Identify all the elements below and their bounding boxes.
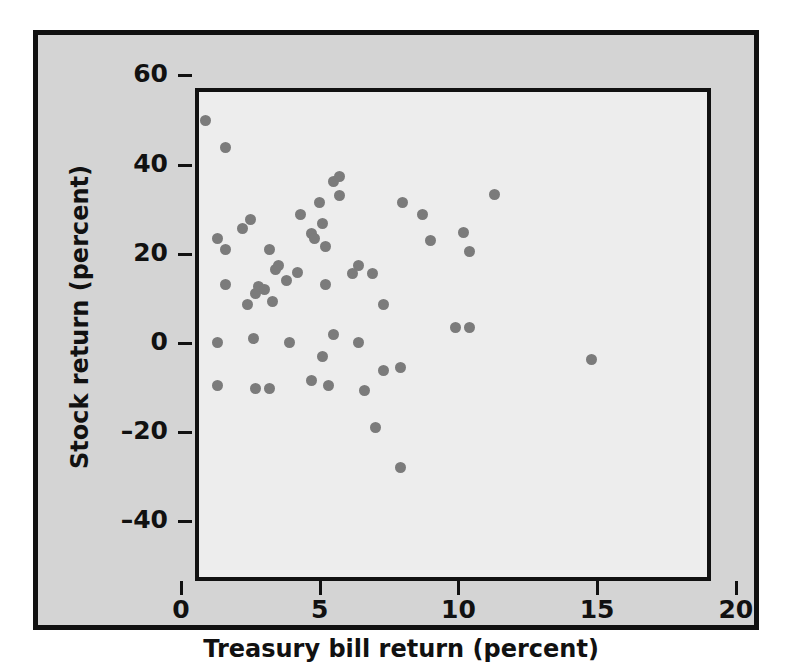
data-point [395,462,406,473]
data-point [314,197,325,208]
data-point [378,299,389,310]
x-axis-tick-label: 0 [136,597,226,622]
data-point [212,337,223,348]
y-axis-tick [178,253,192,256]
data-point [267,296,278,307]
data-point [353,337,364,348]
data-point [323,380,334,391]
data-point [264,383,275,394]
x-axis-tick [457,581,460,595]
y-axis-tick-label: 0 [38,329,168,354]
y-axis-title: Stock return (percent) [66,107,94,527]
scatter-plot-canvas [199,92,707,577]
data-point [464,246,475,257]
data-point [245,214,256,225]
figure-frame: –40–200204060 05101520 Treasury bill ret… [33,30,759,630]
data-point [292,267,303,278]
y-axis-tick [178,74,192,77]
figure-root: –40–200204060 05101520 Treasury bill ret… [0,0,798,671]
x-axis-title: Treasury bill return (percent) [38,635,764,663]
y-axis-tick-label: –20 [38,418,168,443]
data-point [586,354,597,365]
y-axis-tick-label: 20 [38,240,168,265]
data-point [334,171,345,182]
y-axis-tick [178,431,192,434]
data-point [489,189,500,200]
data-point [417,209,428,220]
data-point [200,115,211,126]
data-point [212,380,223,391]
data-point [464,322,475,333]
data-point [395,362,406,373]
x-axis-tick [319,581,322,595]
x-axis-tick-label: 20 [691,597,781,622]
y-axis-tick-label: 40 [38,151,168,176]
data-point [359,385,370,396]
data-point [237,223,248,234]
plot-panel [195,88,711,581]
data-point [334,190,345,201]
data-point [295,209,306,220]
data-point [320,279,331,290]
y-axis-tick-label: 60 [38,61,168,86]
data-point [220,279,231,290]
x-axis-tick [735,581,738,595]
data-point [367,268,378,279]
x-axis-tick [180,581,183,595]
data-point [458,227,469,238]
y-axis-tick [178,520,192,523]
data-point [242,299,253,310]
x-axis-tick-label: 5 [275,597,365,622]
data-point [220,142,231,153]
x-axis-tick-label: 15 [552,597,642,622]
x-axis-tick-label: 10 [413,597,503,622]
data-point [284,337,295,348]
data-point [264,244,275,255]
data-point [320,241,331,252]
data-point [248,333,259,344]
data-point [328,329,339,340]
data-point [259,284,270,295]
data-point [353,260,364,271]
data-point [309,233,320,244]
x-axis-tick [596,581,599,595]
data-point [306,375,317,386]
data-point [397,197,408,208]
data-point [370,422,381,433]
data-point [450,322,461,333]
data-point [273,260,284,271]
data-point [317,351,328,362]
data-point [212,233,223,244]
y-axis-tick-label: –40 [38,507,168,532]
data-point [317,218,328,229]
data-point [250,383,261,394]
data-point [220,244,231,255]
y-axis-tick [178,164,192,167]
data-point [281,275,292,286]
data-point [378,365,389,376]
y-axis-tick [178,342,192,345]
data-point [425,235,436,246]
